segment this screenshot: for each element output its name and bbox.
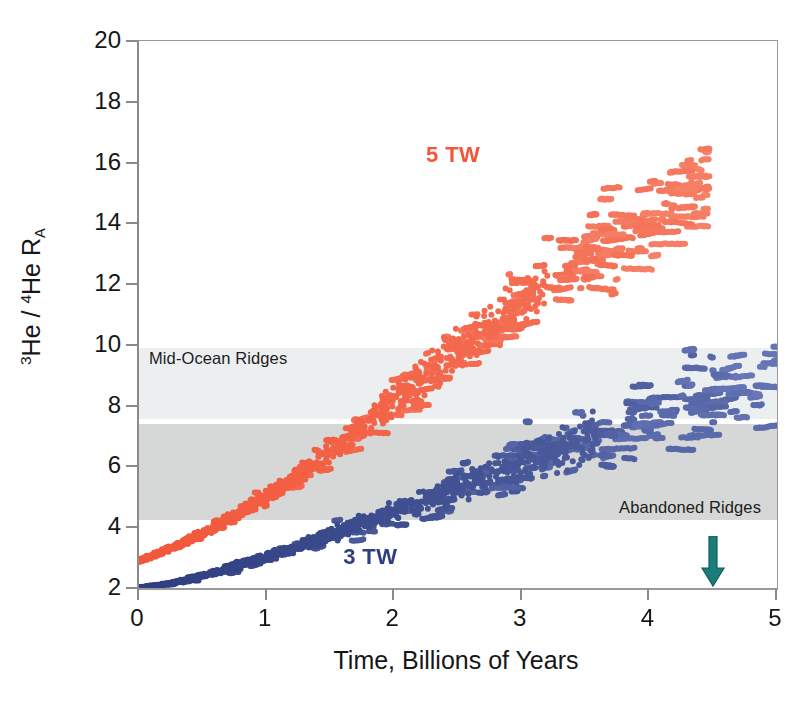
x-axis-tick (265, 589, 267, 600)
y-axis-tick-label: 6 (108, 453, 121, 477)
y-axis-tick (126, 526, 137, 528)
x-axis-tick (137, 589, 139, 600)
present-day-arrow-icon (700, 536, 726, 588)
y-axis-tick-label: 2 (108, 575, 121, 599)
y-axis-tick (126, 222, 137, 224)
x-axis-tick (775, 589, 777, 600)
x-axis-tick-label: 3 (513, 604, 526, 632)
y-axis-tick-label: 8 (108, 393, 121, 417)
series-label-3tw: 3 TW (343, 544, 397, 570)
y-axis-tick-label: 12 (94, 271, 121, 295)
y-axis-tick-label: 14 (94, 210, 121, 234)
y-axis-tick-label: 18 (94, 89, 121, 113)
y-axis-tick (126, 162, 137, 164)
x-axis-tick-label: 4 (641, 604, 654, 632)
plot-area: Mid-Ocean Ridges Abandoned Ridges 5 TW 3… (137, 40, 778, 590)
y-axis-tick-label: 10 (94, 332, 121, 356)
y-axis-tick (126, 405, 137, 407)
x-axis-tick (647, 589, 649, 600)
y-axis-tick (126, 101, 137, 103)
chart-figure: 2018161412108642 Mid-Ocean Ridges Abando… (0, 0, 809, 715)
y-axis-tick (126, 465, 137, 467)
x-axis: 012345 (137, 589, 775, 649)
x-axis-tick (392, 589, 394, 600)
y-axis-tick-label: 20 (94, 28, 121, 52)
y-axis-tick-label: 16 (94, 150, 121, 174)
x-axis-tick-label: 0 (130, 604, 143, 632)
x-axis-title: Time, Billions of Years (137, 646, 775, 675)
y-axis-tick (126, 283, 137, 285)
y-axis-tick-label: 4 (108, 514, 121, 538)
y-axis-title: 3He / 4He RA (17, 147, 46, 447)
x-axis-tick-label: 2 (386, 604, 399, 632)
x-axis-tick-label: 5 (768, 604, 781, 632)
y-axis-tick (126, 40, 137, 42)
series-label-5tw: 5 TW (426, 142, 480, 168)
x-axis-tick (520, 589, 522, 600)
x-axis-tick-label: 1 (258, 604, 271, 632)
y-axis-tick (126, 344, 137, 346)
y-axis-title-text: 3He / 4He RA (18, 228, 46, 365)
y-axis-tick (126, 587, 137, 589)
scatter-plot-canvas (139, 41, 777, 588)
